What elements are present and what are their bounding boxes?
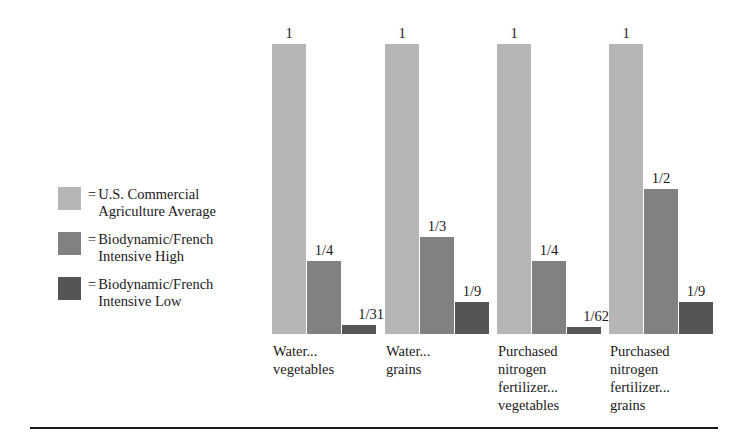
- bar-value-label: 1: [285, 25, 292, 42]
- plot-area: 1 1/4 1/31 Water... vegetables 1 1/3 1/9…: [0, 0, 748, 444]
- bar-value-label: 1/31: [358, 306, 384, 323]
- bar-value-label: 1: [510, 25, 517, 42]
- bar-value-label: 1/3: [428, 218, 447, 235]
- bar-group-water-grains: 1 1/3 1/9 Water... grains: [385, 44, 489, 334]
- bar-value-label: 1/9: [463, 283, 482, 300]
- bar-bd-high: 1/2: [644, 189, 678, 334]
- bar-bd-high: 1/3: [420, 237, 454, 334]
- group-label-water-vegetables: Water... vegetables: [273, 342, 334, 378]
- bar-value-label: 1: [622, 25, 629, 42]
- bar-bd-low: 1/9: [679, 302, 713, 334]
- bottom-divider-rule: [30, 427, 718, 429]
- bar-value-label: 1/4: [315, 242, 334, 259]
- bar-us-commercial: 1: [272, 44, 306, 334]
- bar-us-commercial: 1: [385, 44, 419, 334]
- group-label-fertilizer-vegetables: Purchased nitrogen fertilizer... vegetab…: [498, 342, 559, 414]
- bar-value-label: 1: [398, 25, 405, 42]
- bar-value-label: 1/62: [583, 308, 609, 325]
- bar-group-water-vegetables: 1 1/4 1/31 Water... vegetables: [272, 44, 376, 334]
- chart-figure: = U.S. Commercial Agriculture Average = …: [0, 0, 748, 444]
- bar-value-label: 1/2: [652, 170, 671, 187]
- bar-bd-low: 1/9: [455, 302, 489, 334]
- bar-bd-low: 1/62: [567, 327, 601, 334]
- bar-bd-high: 1/4: [307, 261, 341, 334]
- bar-group-fertilizer-grains: 1 1/2 1/9 Purchased nitrogen fertilizer.…: [609, 44, 713, 334]
- bar-us-commercial: 1: [497, 44, 531, 334]
- bar-us-commercial: 1: [609, 44, 643, 334]
- bar-value-label: 1/4: [540, 242, 559, 259]
- group-label-fertilizer-grains: Purchased nitrogen fertilizer... grains: [610, 342, 670, 414]
- bar-group-fertilizer-vegetables: 1 1/4 1/62 Purchased nitrogen fertilizer…: [497, 44, 601, 334]
- bar-bd-low: 1/31: [342, 325, 376, 334]
- bar-value-label: 1/9: [687, 283, 706, 300]
- bar-bd-high: 1/4: [532, 261, 566, 334]
- group-label-water-grains: Water... grains: [386, 342, 430, 378]
